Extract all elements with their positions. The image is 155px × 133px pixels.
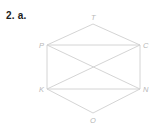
- edge-k-o: [47, 89, 93, 113]
- vertex-label-c: C: [143, 41, 149, 50]
- vertex-label-p: P: [39, 41, 44, 50]
- graph-diagram: TPCKNO: [0, 0, 155, 133]
- edge-t-c: [93, 24, 140, 45]
- edge-t-p: [47, 24, 93, 45]
- vertex-label-n: N: [143, 85, 149, 94]
- edges-group: [47, 24, 140, 113]
- edge-n-o: [93, 89, 140, 113]
- vertex-label-k: K: [39, 85, 45, 94]
- vertex-labels-group: TPCKNO: [39, 13, 149, 125]
- vertex-label-t: T: [91, 13, 97, 22]
- vertex-label-o: O: [90, 116, 96, 125]
